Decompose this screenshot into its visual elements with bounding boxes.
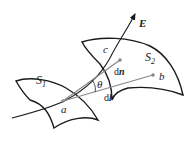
label-dn: dn — [114, 66, 125, 77]
label-b: b — [159, 70, 165, 82]
label-s1: S1 — [36, 73, 46, 89]
label-s2: S2 — [145, 50, 155, 66]
point-b — [151, 73, 155, 77]
label-theta: θ — [97, 78, 103, 90]
theta-arc — [92, 80, 95, 92]
label-e: E — [138, 17, 146, 29]
label-dl: dl — [104, 92, 112, 103]
label-c: c — [103, 43, 108, 55]
surface-s1 — [16, 79, 98, 128]
label-a: a — [61, 103, 67, 115]
equipotential-diagram: E c S1 S2 θ dn dl a b — [0, 0, 194, 143]
dn-endpoint — [118, 58, 122, 62]
